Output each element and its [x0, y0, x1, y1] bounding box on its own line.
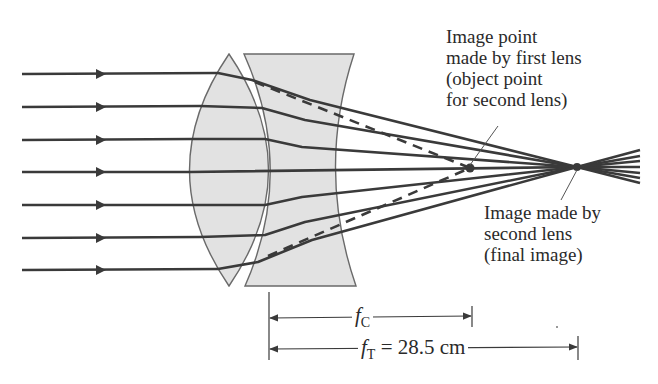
first-image-label: Image point made by first lens (object p…	[446, 26, 582, 110]
final-image-leader	[561, 170, 577, 200]
first-image-label-line: for second lens)	[446, 89, 582, 110]
final-image-label-line: second lens	[484, 223, 601, 244]
stray-dot	[556, 326, 558, 328]
fc-label: fC	[352, 304, 373, 334]
final-image-point	[573, 163, 581, 171]
incoming-rays	[22, 73, 218, 270]
fc-subscript: C	[361, 315, 370, 330]
ft-value: = 28.5 cm	[375, 335, 465, 359]
final-image-label: Image made by second lens (final image)	[484, 202, 601, 265]
first-image-label-line: Image point	[446, 26, 582, 47]
first-image-label-line: made by first lens	[446, 47, 582, 68]
ray-arrow-icons	[96, 69, 106, 275]
ft-label: fT = 28.5 cm	[358, 336, 468, 366]
final-image-label-line: Image made by	[484, 202, 601, 223]
final-image-label-line: (final image)	[484, 244, 601, 265]
first-image-label-line: (object point	[446, 68, 582, 89]
